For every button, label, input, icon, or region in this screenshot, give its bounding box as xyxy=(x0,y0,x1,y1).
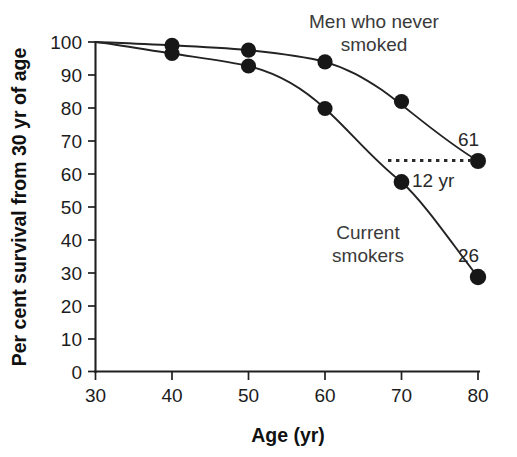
x-tick-label-50: 50 xyxy=(238,385,259,406)
x-tick-label-30: 30 xyxy=(85,385,106,406)
current-smokers-points xyxy=(164,46,486,285)
data-point xyxy=(241,58,256,73)
data-point xyxy=(394,174,410,190)
survival-gap-label: 12 yr xyxy=(412,170,455,191)
data-point xyxy=(317,101,332,116)
y-tick-label-90: 90 xyxy=(61,65,82,86)
survival-curve-figure: 100 90 80 70 60 50 40 30 20 10 0 30 40 5… xyxy=(0,0,517,457)
data-point xyxy=(470,153,486,169)
x-tick-label-80: 80 xyxy=(467,385,488,406)
y-tick-label-40: 40 xyxy=(61,230,82,251)
data-point xyxy=(317,54,332,69)
x-tick-label-40: 40 xyxy=(161,385,182,406)
never-smoked-curve xyxy=(96,42,479,161)
x-tick-label-60: 60 xyxy=(314,385,335,406)
data-point xyxy=(394,94,409,109)
data-point xyxy=(470,269,486,285)
data-point xyxy=(241,43,256,58)
y-axis-title: Per cent survival from 30 yr of age xyxy=(8,48,30,367)
y-tick-label-10: 10 xyxy=(61,329,82,350)
never-smoked-endpoint-label: 61 xyxy=(458,129,479,150)
y-tick-label-100: 100 xyxy=(50,32,82,53)
x-axis-title: Age (yr) xyxy=(251,424,325,446)
y-tick-label-80: 80 xyxy=(61,98,82,119)
y-tick-label-20: 20 xyxy=(61,296,82,317)
current-smokers-label-line2: smokers xyxy=(332,245,404,266)
current-smokers-endpoint-label: 26 xyxy=(458,245,479,266)
y-tick-label-60: 60 xyxy=(61,164,82,185)
never-smoked-label-line2: smoked xyxy=(341,34,408,55)
y-tick-label-30: 30 xyxy=(61,263,82,284)
chart-canvas: 100 90 80 70 60 50 40 30 20 10 0 30 40 5… xyxy=(0,0,517,457)
y-tick-label-50: 50 xyxy=(61,197,82,218)
never-smoked-label-line1: Men who never xyxy=(309,11,440,32)
current-smokers-label-line1: Current xyxy=(336,222,400,243)
x-axis-ticks xyxy=(96,372,479,381)
x-tick-label-70: 70 xyxy=(391,385,412,406)
y-tick-label-70: 70 xyxy=(61,131,82,152)
y-axis-ticks xyxy=(88,42,96,372)
data-point xyxy=(164,46,179,61)
y-tick-label-0: 0 xyxy=(71,362,82,383)
